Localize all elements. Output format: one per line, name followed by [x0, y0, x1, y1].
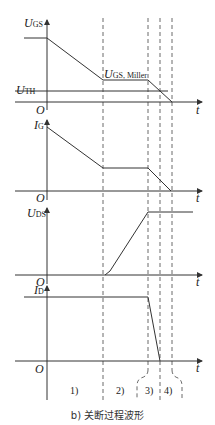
panel-ugs	[15, 20, 202, 110]
region-label-4: 4)	[164, 386, 172, 396]
bracket-4-right	[172, 370, 182, 400]
uds-waveform	[105, 212, 193, 275]
region-label-2: 2)	[116, 386, 124, 396]
panel-uds	[15, 208, 202, 284]
ugs-waveform	[24, 38, 172, 102]
uds-axis-label: UDS	[27, 207, 46, 219]
uth-label: UTH	[16, 84, 35, 96]
origin-label: O	[35, 363, 44, 375]
ugs-axis-label: UGS	[24, 17, 43, 29]
miller-label: UGS, Miller	[104, 68, 147, 80]
t-axis-label: t	[196, 276, 199, 288]
ig-waveform	[47, 127, 171, 191]
region-label-3: 3)	[145, 386, 153, 396]
t-axis-label: t	[196, 192, 199, 204]
ig-axis-label: IG	[34, 119, 44, 131]
origin-label: O	[36, 192, 45, 204]
panel-ig	[15, 120, 202, 200]
t-axis-label: t	[196, 362, 199, 374]
region-label-1: 1)	[70, 386, 78, 396]
origin-label: O	[36, 104, 45, 116]
panel-id	[15, 286, 202, 400]
t-axis-label: t	[196, 104, 199, 116]
figure-caption: b) 关断过程波形	[0, 407, 215, 422]
id-axis-label: ID	[34, 284, 44, 296]
id-waveform	[24, 297, 160, 361]
